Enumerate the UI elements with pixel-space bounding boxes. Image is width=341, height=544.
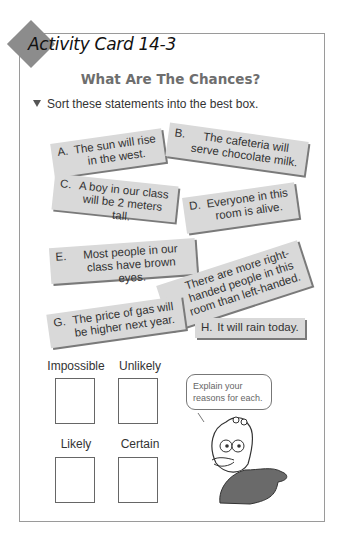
drop-box-likely[interactable] <box>55 457 95 503</box>
statement-letter: H. <box>201 321 213 334</box>
card-title: Activity Card 14-3 <box>28 34 176 54</box>
statement-text: It will rain today. <box>201 321 299 334</box>
instruction-text: Sort these statements into the best box. <box>47 97 258 111</box>
category-label-certain: Certain <box>105 437 175 451</box>
drop-box-unlikely[interactable] <box>118 378 158 424</box>
statement-letter: A. <box>57 145 70 159</box>
category-label-impossible: Impossible <box>41 359 111 373</box>
statement-letter: B. <box>174 126 187 140</box>
category-label-likely: Likely <box>41 437 111 451</box>
statement-strip-h[interactable]: H. It will rain today. <box>195 318 305 338</box>
statement-letter: E. <box>55 250 67 264</box>
triangle-bullet-icon <box>33 100 41 107</box>
drop-box-certain[interactable] <box>118 457 158 503</box>
statement-letter: D. <box>188 199 201 213</box>
speech-bubble: Explain your reasons for each. <box>186 374 272 410</box>
category-label-unlikely: Unlikely <box>105 359 175 373</box>
statement-letter: C. <box>60 177 73 191</box>
card-subtitle: What Are The Chances? <box>0 71 341 87</box>
cartoon-character-icon <box>190 408 300 508</box>
statement-letter: G. <box>53 315 67 330</box>
drop-box-impossible[interactable] <box>55 378 95 424</box>
instruction: Sort these statements into the best box. <box>33 97 258 111</box>
